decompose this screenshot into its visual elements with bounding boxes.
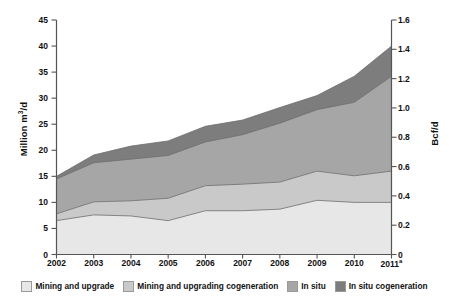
plot-area [0, 0, 449, 296]
x-axis-tick-label-9: 2011a [375, 258, 409, 269]
y-axis-left-tick-label-4: 20 [26, 145, 48, 155]
area-series-group [57, 46, 392, 254]
legend-item-2[interactable]: In situ [287, 281, 325, 292]
chart-legend: Mining and upgradeMining and upgrading c… [0, 278, 449, 294]
y-axis-left-tick-label-2: 10 [26, 197, 48, 207]
legend-item-label-0: Mining and upgrade [35, 282, 114, 290]
legend-swatch-icon-1 [123, 281, 134, 292]
legend-swatch-icon-2 [287, 281, 298, 292]
y-axis-left-tick-label-1: 5 [26, 223, 48, 233]
y-axis-right-tick-label-5: 1.0 [398, 103, 424, 113]
legend-item-label-2: In situ [301, 282, 325, 290]
x-axis-tick-label-8: 2010 [337, 258, 371, 268]
legend-item-1[interactable]: Mining and upgrading cogeneration [123, 281, 278, 292]
legend-item-3[interactable]: In situ cogeneration [335, 281, 428, 292]
y-axis-right-tick-label-8: 1.6 [398, 15, 424, 25]
y-axis-right-tick-label-4: 0.8 [398, 132, 424, 142]
legend-item-0[interactable]: Mining and upgrade [21, 281, 114, 292]
legend-item-label-1: Mining and upgrading cogeneration [137, 282, 278, 290]
legend-swatch-icon-0 [21, 281, 32, 292]
y-axis-left-tick-label-9: 45 [26, 15, 48, 25]
y-axis-left-tick-label-5: 25 [26, 119, 48, 129]
y-axis-right-tick-label-6: 1.2 [398, 74, 424, 84]
x-axis-tick-label-3: 2005 [151, 258, 185, 268]
x-axis-tick-label-1: 2003 [77, 258, 111, 268]
y-axis-left-tick-label-6: 30 [26, 93, 48, 103]
y-axis-right-tick-label-2: 0.4 [398, 191, 424, 201]
y-axis-right-tick-label-1: 0.2 [398, 220, 424, 230]
x-axis-tick-label-0: 2002 [40, 258, 74, 268]
x-axis-tick-label-6: 2008 [263, 258, 297, 268]
x-axis-tick-label-5: 2007 [226, 258, 260, 268]
y-axis-right-tick-label-7: 1.4 [398, 44, 424, 54]
y-axis-right-tick-label-3: 0.6 [398, 162, 424, 172]
x-axis-tick-label-4: 2006 [188, 258, 222, 268]
x-axis-tick-label-2: 2004 [114, 258, 148, 268]
x-axis-tick-label-7: 2009 [300, 258, 334, 268]
y-axis-left-tick-label-7: 35 [26, 67, 48, 77]
legend-swatch-icon-3 [335, 281, 346, 292]
chart-container: Million m3/d Bcf/d 05101520253035404500.… [0, 0, 449, 296]
y-axis-left-tick-label-8: 40 [26, 41, 48, 51]
legend-item-label-3: In situ cogeneration [349, 282, 428, 290]
y-axis-left-tick-label-3: 15 [26, 171, 48, 181]
